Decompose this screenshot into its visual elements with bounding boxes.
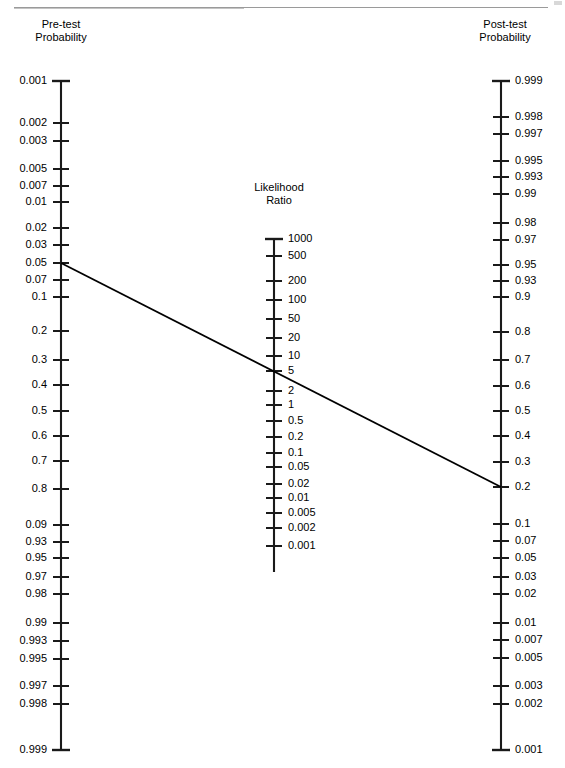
tick-label-pre-test-probability: 0.998 <box>0 698 47 709</box>
tick-label-post-test-probability: 0.4 <box>515 430 530 441</box>
tick-label-post-test-probability: 0.995 <box>515 155 543 166</box>
tick-label-pre-test-probability: 0.4 <box>0 379 47 390</box>
tick-label-likelihood-ratio: 0.001 <box>288 540 316 551</box>
tick-label-post-test-probability: 0.1 <box>515 518 530 529</box>
tick-label-pre-test-probability: 0.93 <box>0 536 47 547</box>
tick-label-pre-test-probability: 0.007 <box>0 180 47 191</box>
tick-label-post-test-probability: 0.007 <box>515 634 543 645</box>
tick-label-post-test-probability: 0.2 <box>515 481 530 492</box>
tick-label-pre-test-probability: 0.98 <box>0 588 47 599</box>
fagan-nomogram: Pre-test Probability Likelihood Ratio Po… <box>0 0 565 768</box>
tick-label-likelihood-ratio: 0.01 <box>288 492 309 503</box>
tick-label-likelihood-ratio: 200 <box>288 275 306 286</box>
tick-label-pre-test-probability: 0.002 <box>0 117 47 128</box>
tick-label-post-test-probability: 0.07 <box>515 535 536 546</box>
tick-label-pre-test-probability: 0.03 <box>0 239 47 250</box>
tick-label-pre-test-probability: 0.5 <box>0 405 47 416</box>
tick-label-post-test-probability: 0.005 <box>515 652 543 663</box>
tick-label-likelihood-ratio: 1 <box>288 399 294 410</box>
tick-label-pre-test-probability: 0.01 <box>0 196 47 207</box>
tick-label-pre-test-probability: 0.7 <box>0 455 47 466</box>
tick-label-pre-test-probability: 0.003 <box>0 135 47 146</box>
tick-label-post-test-probability: 0.998 <box>515 111 543 122</box>
tick-label-likelihood-ratio: 20 <box>288 332 300 343</box>
tick-label-post-test-probability: 0.002 <box>515 698 543 709</box>
tick-label-post-test-probability: 0.05 <box>515 552 536 563</box>
tick-label-post-test-probability: 0.993 <box>515 171 543 182</box>
tick-label-post-test-probability: 0.003 <box>515 680 543 691</box>
tick-label-post-test-probability: 0.997 <box>515 128 543 139</box>
tick-label-pre-test-probability: 0.005 <box>0 163 47 174</box>
tick-label-pre-test-probability: 0.02 <box>0 222 47 233</box>
tick-label-likelihood-ratio: 50 <box>288 313 300 324</box>
tick-label-likelihood-ratio: 0.005 <box>288 507 316 518</box>
tick-label-pre-test-probability: 0.993 <box>0 635 47 646</box>
tick-label-pre-test-probability: 0.8 <box>0 483 47 494</box>
tick-label-pre-test-probability: 0.001 <box>0 75 47 86</box>
tick-label-pre-test-probability: 0.999 <box>0 744 47 755</box>
tick-label-post-test-probability: 0.02 <box>515 588 536 599</box>
tick-label-pre-test-probability: 0.6 <box>0 430 47 441</box>
tick-label-post-test-probability: 0.5 <box>515 405 530 416</box>
tick-label-likelihood-ratio: 100 <box>288 294 306 305</box>
tick-label-post-test-probability: 0.3 <box>515 456 530 467</box>
tick-label-likelihood-ratio: 0.02 <box>288 478 309 489</box>
tick-label-likelihood-ratio: 1000 <box>288 233 312 244</box>
tick-label-likelihood-ratio: 0.2 <box>288 431 303 442</box>
tick-label-post-test-probability: 0.93 <box>515 275 536 286</box>
tick-label-pre-test-probability: 0.3 <box>0 354 47 365</box>
tick-label-post-test-probability: 0.8 <box>515 326 530 337</box>
tick-label-post-test-probability: 0.999 <box>515 75 543 86</box>
tick-label-likelihood-ratio: 0.002 <box>288 522 316 533</box>
tick-label-pre-test-probability: 0.2 <box>0 325 47 336</box>
tick-label-pre-test-probability: 0.99 <box>0 617 47 628</box>
tick-label-post-test-probability: 0.99 <box>515 188 536 199</box>
tick-label-post-test-probability: 0.001 <box>515 744 543 755</box>
tick-label-pre-test-probability: 0.997 <box>0 680 47 691</box>
tick-label-pre-test-probability: 0.05 <box>0 257 47 268</box>
tick-label-post-test-probability: 0.95 <box>515 259 536 270</box>
tick-label-likelihood-ratio: 500 <box>288 250 306 261</box>
tick-label-post-test-probability: 0.98 <box>515 217 536 228</box>
tick-label-likelihood-ratio: 0.5 <box>288 415 303 426</box>
tick-label-post-test-probability: 0.01 <box>515 617 536 628</box>
tick-label-post-test-probability: 0.03 <box>515 571 536 582</box>
tick-label-post-test-probability: 0.7 <box>515 354 530 365</box>
tick-label-likelihood-ratio: 2 <box>288 385 294 396</box>
tick-label-pre-test-probability: 0.1 <box>0 291 47 302</box>
nomogram-scales <box>0 0 565 768</box>
tick-label-pre-test-probability: 0.97 <box>0 571 47 582</box>
tick-label-post-test-probability: 0.6 <box>515 380 530 391</box>
tick-label-pre-test-probability: 0.09 <box>0 519 47 530</box>
tick-label-likelihood-ratio: 0.05 <box>288 461 309 472</box>
tick-label-likelihood-ratio: 0.1 <box>288 447 303 458</box>
tick-label-post-test-probability: 0.9 <box>515 291 530 302</box>
tick-label-pre-test-probability: 0.07 <box>0 274 47 285</box>
tick-label-post-test-probability: 0.97 <box>515 234 536 245</box>
tick-label-likelihood-ratio: 10 <box>288 350 300 361</box>
tick-label-likelihood-ratio: 5 <box>288 365 294 376</box>
tick-label-pre-test-probability: 0.95 <box>0 552 47 563</box>
tick-label-pre-test-probability: 0.995 <box>0 653 47 664</box>
